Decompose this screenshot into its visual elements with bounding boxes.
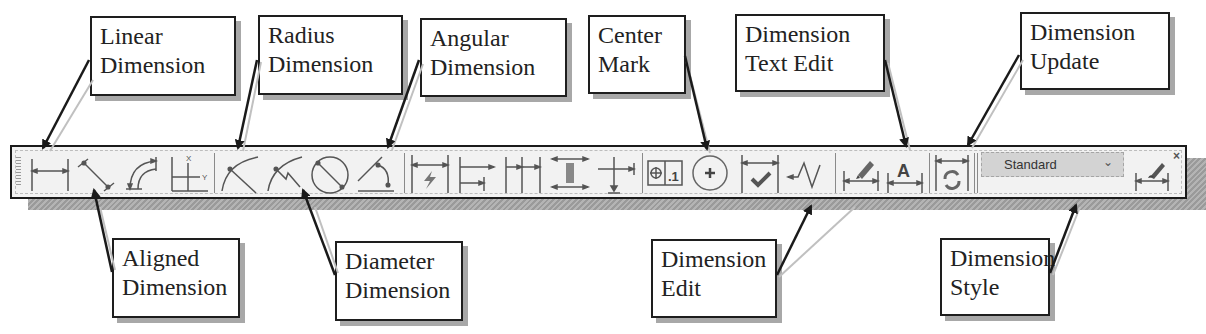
quick-dimension-button[interactable] (408, 151, 452, 195)
ordinate-button[interactable]: X Y (168, 151, 212, 195)
callout-line: Text Edit (745, 49, 877, 78)
callout-dimension-edit: Dimension Edit (651, 239, 777, 318)
dimension-text-edit-button[interactable]: A (884, 151, 926, 195)
callout-line: Center (598, 21, 678, 50)
arc-length-button[interactable] (120, 151, 166, 195)
aligned-dimension-icon (74, 151, 118, 195)
callout-dimension-style: Dimension Style (940, 238, 1050, 316)
baseline-button[interactable] (456, 151, 500, 195)
dimension-update-icon (932, 151, 972, 195)
center-mark-button[interactable] (688, 151, 732, 195)
dimension-space-icon (548, 151, 592, 195)
callout-line: Diameter (345, 247, 455, 276)
callout-line: Angular (430, 24, 559, 53)
ordinate-icon: X Y (168, 151, 212, 195)
baseline-icon (456, 151, 500, 195)
toolbar-separator (929, 153, 930, 193)
dimension-space-button[interactable] (548, 151, 592, 195)
dimension-style-icon (1132, 151, 1172, 195)
dimension-style-select[interactable]: Standard ⌄ (981, 152, 1124, 177)
callout-line: Dimension (950, 244, 1042, 273)
leader-update (968, 55, 1019, 145)
callout-line: Style (950, 273, 1042, 302)
radius-dimension-button[interactable] (218, 151, 262, 195)
toolbar-separator (642, 153, 643, 193)
leader-edit (777, 206, 811, 275)
continue-icon (502, 151, 546, 195)
jogged-radius-button[interactable] (264, 151, 308, 195)
inspection-button[interactable] (738, 151, 782, 195)
svg-text:Y: Y (202, 173, 208, 182)
continue-button[interactable] (502, 151, 546, 195)
diameter-dimension-button[interactable] (308, 151, 352, 195)
dimension-toolbar: X Y (10, 145, 1187, 199)
svg-text:A: A (897, 161, 910, 181)
callout-line: Radius (268, 21, 395, 50)
svg-text:X: X (186, 154, 192, 163)
jogged-linear-button[interactable] (784, 151, 828, 195)
linear-dimension-button[interactable] (28, 151, 72, 195)
jogged-linear-icon (784, 151, 828, 195)
radius-icon (218, 151, 262, 195)
leader-center-mark (685, 56, 707, 149)
callout-line: Dimension (661, 245, 769, 274)
callout-line: Linear (100, 22, 228, 51)
callout-diameter-dimension: Diameter Dimension (335, 241, 463, 321)
callout-center-mark: Center Mark (588, 15, 686, 94)
callout-dimension-text-edit: Dimension Text Edit (735, 14, 885, 92)
callout-aligned-dimension: Aligned Dimension (112, 238, 240, 318)
callout-line: Dimension (100, 51, 228, 80)
quick-dimension-icon (408, 151, 452, 195)
dimension-edit-button[interactable] (840, 151, 882, 195)
tolerance-icon: .1 (644, 151, 688, 195)
toolbar-separator (974, 153, 975, 193)
leader-linear (43, 60, 89, 148)
center-mark-icon (688, 151, 732, 195)
dimension-break-icon (594, 151, 638, 195)
dimension-text-edit-icon: A (884, 151, 926, 195)
callout-angular-dimension: Angular Dimension (420, 18, 567, 97)
angular-icon (354, 151, 398, 195)
callout-line: Mark (598, 50, 678, 79)
callout-line: Dimension (745, 20, 877, 49)
toolbar-separator (977, 153, 978, 193)
callout-dimension-update: Dimension Update (1020, 12, 1170, 90)
chevron-down-icon: ⌄ (1103, 155, 1113, 169)
dimension-break-button[interactable] (594, 151, 638, 195)
callout-linear-dimension: Linear Dimension (90, 16, 236, 96)
dimension-style-button[interactable] (1132, 151, 1172, 195)
callout-line: Dimension (345, 276, 455, 305)
callout-line: Dimension (122, 273, 232, 302)
callout-line: Dimension (268, 50, 395, 79)
dimension-update-button[interactable] (932, 151, 972, 195)
jogged-radius-icon (264, 151, 308, 195)
toolbar-separator (835, 153, 836, 193)
dimension-edit-icon (840, 151, 882, 195)
inspection-icon (738, 151, 782, 195)
close-icon[interactable]: × (1173, 149, 1180, 163)
callout-line: Update (1030, 47, 1162, 76)
toolbar-separator (214, 153, 215, 193)
svg-text:.1: .1 (668, 169, 679, 184)
callout-line: Aligned (122, 244, 232, 273)
callout-line: Edit (661, 274, 769, 303)
linear-dimension-icon (28, 151, 72, 195)
callout-radius-dimension: Radius Dimension (258, 15, 403, 95)
leader-radius (238, 60, 257, 148)
tolerance-button[interactable]: .1 (644, 151, 688, 195)
toolbar-grip-handle[interactable] (16, 157, 21, 187)
angular-dimension-button[interactable] (354, 151, 398, 195)
dimension-style-value: Standard (1004, 157, 1057, 172)
callout-line: Dimension (1030, 18, 1162, 47)
toolbar-separator (404, 153, 405, 193)
diameter-icon (308, 151, 352, 195)
callout-line: Dimension (430, 53, 559, 82)
leader-text-edit (885, 60, 906, 146)
arc-length-icon (120, 151, 166, 195)
aligned-dimension-button[interactable] (74, 151, 118, 195)
